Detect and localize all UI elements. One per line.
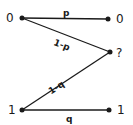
output-label-0: 0 bbox=[116, 12, 124, 26]
channel-diagram: 0 1 0 ? 1 p 1-p 1-q q bbox=[0, 0, 133, 125]
output-label-erasure: ? bbox=[116, 46, 122, 60]
input-label-1: 1 bbox=[8, 103, 16, 117]
output-node-1 bbox=[107, 108, 112, 113]
edge-label-q: q bbox=[66, 114, 72, 124]
output-node-erasure bbox=[108, 50, 113, 55]
edge-label-1-q: 1-q bbox=[47, 79, 66, 96]
edge-p bbox=[22, 18, 108, 19]
output-label-1: 1 bbox=[117, 103, 125, 117]
edge-label-p: p bbox=[63, 8, 70, 18]
edge-1-q bbox=[22, 52, 110, 110]
output-node-0 bbox=[106, 17, 111, 22]
input-label-0: 0 bbox=[6, 11, 14, 25]
input-node-1 bbox=[20, 108, 25, 113]
edge-label-1-p: 1-p bbox=[52, 37, 71, 52]
input-node-0 bbox=[20, 16, 25, 21]
